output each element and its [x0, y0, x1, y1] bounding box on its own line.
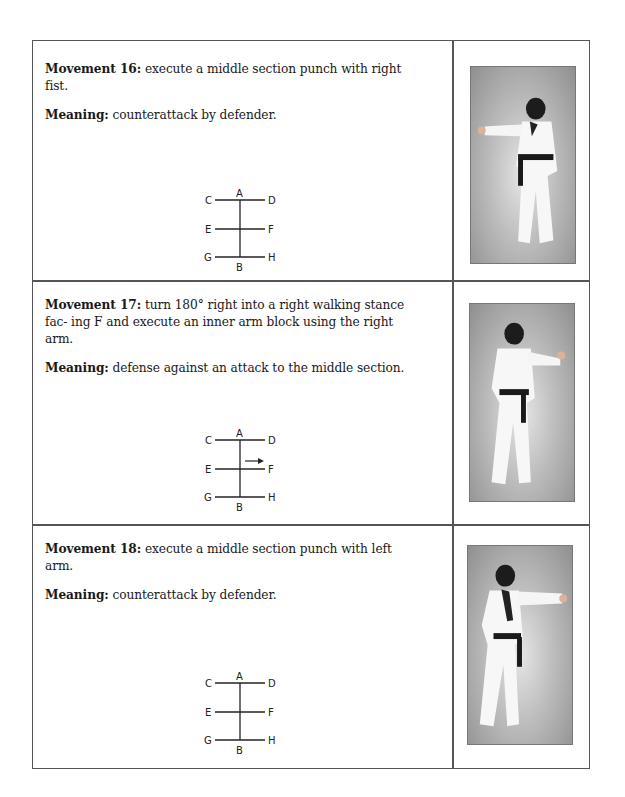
- svg-text:G: G: [204, 735, 212, 746]
- movement-18-photo: [467, 545, 573, 745]
- svg-text:C: C: [205, 678, 212, 689]
- svg-text:D: D: [268, 435, 276, 446]
- svg-text:F: F: [268, 224, 274, 235]
- stance-diagram: A B C D E F G H: [190, 425, 290, 515]
- svg-text:D: D: [268, 678, 276, 689]
- movement-meaning: Meaning: counterattack by defender.: [45, 587, 415, 604]
- movement-16-photo: [470, 66, 576, 264]
- meaning-text: counterattack by defender.: [113, 588, 277, 602]
- column-divider: [452, 41, 454, 768]
- meaning-label: Meaning:: [45, 108, 109, 122]
- meaning-label: Meaning:: [45, 588, 109, 602]
- movement-description: Movement 18: execute a middle section pu…: [45, 541, 415, 575]
- svg-text:H: H: [268, 252, 276, 263]
- movement-label: Movement 17:: [45, 298, 141, 312]
- movement-18-text: Movement 18: execute a middle section pu…: [45, 541, 415, 616]
- svg-text:A: A: [236, 188, 243, 199]
- movement-description: Movement 17: turn 180° right into a righ…: [45, 297, 415, 348]
- svg-text:G: G: [204, 252, 212, 263]
- row-divider: [33, 524, 589, 526]
- svg-text:B: B: [236, 502, 243, 513]
- movement-17-text: Movement 17: turn 180° right into a righ…: [45, 297, 415, 389]
- svg-text:E: E: [205, 464, 211, 475]
- svg-text:D: D: [268, 195, 276, 206]
- movement-16-text: Movement 16: execute a middle section pu…: [45, 61, 415, 136]
- stance-diagram: A B C D E F G H: [190, 185, 290, 275]
- svg-text:A: A: [236, 671, 243, 682]
- meaning-text: defense against an attack to the middle …: [113, 361, 405, 375]
- svg-text:B: B: [236, 745, 243, 756]
- svg-text:C: C: [205, 435, 212, 446]
- svg-text:G: G: [204, 492, 212, 503]
- movement-label: Movement 18:: [45, 542, 141, 556]
- movement-17-photo: [469, 303, 575, 502]
- movement-meaning: Meaning: defense against an attack to th…: [45, 360, 415, 377]
- svg-text:C: C: [205, 195, 212, 206]
- svg-text:F: F: [268, 707, 274, 718]
- stance-diagram: A B C D E F G H: [190, 668, 290, 758]
- svg-text:E: E: [205, 224, 211, 235]
- meaning-label: Meaning:: [45, 361, 109, 375]
- svg-text:H: H: [268, 735, 276, 746]
- direction-arrow-icon: [245, 458, 264, 464]
- movement-label: Movement 16:: [45, 62, 141, 76]
- svg-text:B: B: [236, 262, 243, 273]
- svg-text:A: A: [236, 428, 243, 439]
- movement-description: Movement 16: execute a middle section pu…: [45, 61, 415, 95]
- svg-text:H: H: [268, 492, 276, 503]
- svg-text:F: F: [268, 464, 274, 475]
- movement-meaning: Meaning: counterattack by defender.: [45, 107, 415, 124]
- meaning-text: counterattack by defender.: [113, 108, 277, 122]
- svg-text:E: E: [205, 707, 211, 718]
- row-divider: [33, 280, 589, 282]
